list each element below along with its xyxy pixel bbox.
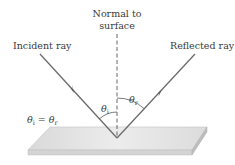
reflected-ray-label: Reflected ray — [170, 40, 235, 51]
theta-r-label: θr — [129, 94, 139, 107]
normal-label-line1: Normal to — [93, 8, 142, 19]
slab-top-face — [28, 127, 207, 150]
incident-ray-label: Incident ray — [13, 40, 72, 51]
reflection-law-equation: θi = θr — [27, 114, 59, 127]
reflection-diagram: Normal to surface Incident ray Reflected… — [0, 0, 235, 165]
incident-ray — [40, 54, 117, 138]
reflecting-surface — [28, 127, 207, 155]
theta-i-label: θi — [101, 103, 109, 116]
slab-front-face — [28, 150, 192, 155]
normal-label-line2: surface — [99, 20, 135, 31]
